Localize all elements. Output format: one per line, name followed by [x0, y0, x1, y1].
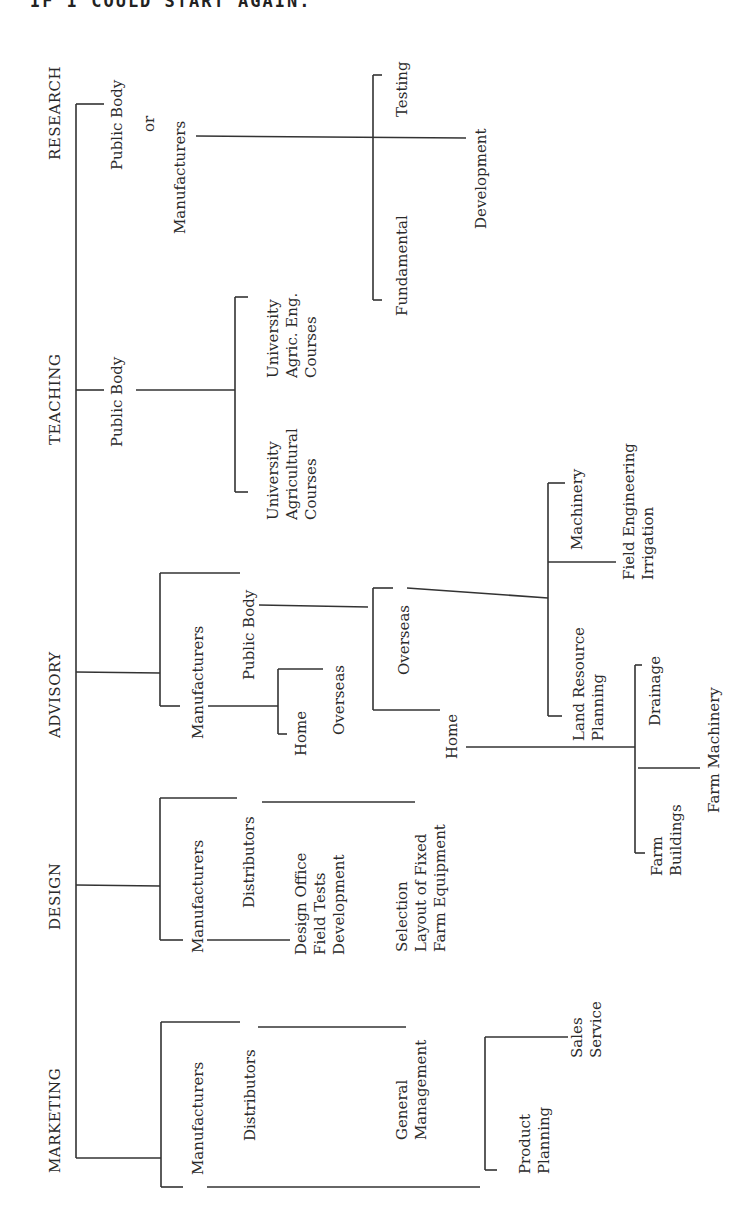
design-office-tests-development: Design Office Field Tests Development	[292, 853, 349, 955]
design-distributors: Distributors	[240, 816, 259, 908]
research-development: Development	[472, 129, 491, 229]
advisory-public-body: Public Body	[240, 590, 259, 680]
category-teaching: TEACHING	[46, 354, 65, 445]
teaching-univ-agric-eng: University Agric. Eng. Courses	[264, 293, 321, 378]
advisory-mf-home: Home	[292, 711, 311, 756]
teaching-public-body: Public Body	[108, 357, 127, 447]
research-public-body: Public Body	[108, 80, 127, 170]
advisory-farm-machinery: Farm Machinery	[705, 687, 724, 813]
advisory-land-resource: Land Resource Planning	[570, 627, 608, 741]
research-or: or	[140, 116, 159, 132]
teaching-univ-agricultural: University Agricultural Courses	[264, 428, 321, 520]
advisory-machinery: Machinery	[568, 469, 587, 550]
advisory-field-engineering: Field Engineering Irrigation	[620, 443, 658, 580]
marketing-manufacturers: Manufacturers	[189, 1062, 208, 1175]
design-manufacturers: Manufacturers	[189, 840, 208, 953]
marketing-general-management: General Management	[393, 1040, 431, 1140]
category-advisory: ADVISORY	[46, 651, 65, 738]
advisory-farm-buildings: Farm Buildings	[648, 804, 686, 876]
advisory-pb-home: Home	[443, 714, 462, 759]
category-research: RESEARCH	[46, 66, 65, 160]
advisory-pb-overseas: Overseas	[395, 605, 414, 675]
design-selection-layout: Selection Layout of Fixed Farm Equipment	[393, 824, 450, 952]
research-fundamental: Fundamental	[393, 215, 412, 316]
advisory-drainage: Drainage	[646, 656, 665, 726]
marketing-distributors: Distributors	[241, 1049, 260, 1141]
research-testing: Testing	[393, 61, 412, 117]
category-marketing: MARKETING	[46, 1068, 65, 1173]
advisory-mf-overseas: Overseas	[330, 665, 349, 735]
category-design: DESIGN	[46, 863, 65, 930]
marketing-product-planning: Product Planning	[516, 1107, 554, 1174]
advisory-manufacturers: Manufacturers	[189, 626, 208, 739]
research-manufacturers: Manufacturers	[171, 121, 190, 234]
marketing-sales-service: Sales Service	[568, 1001, 606, 1058]
tree-connectors	[0, 0, 754, 1207]
